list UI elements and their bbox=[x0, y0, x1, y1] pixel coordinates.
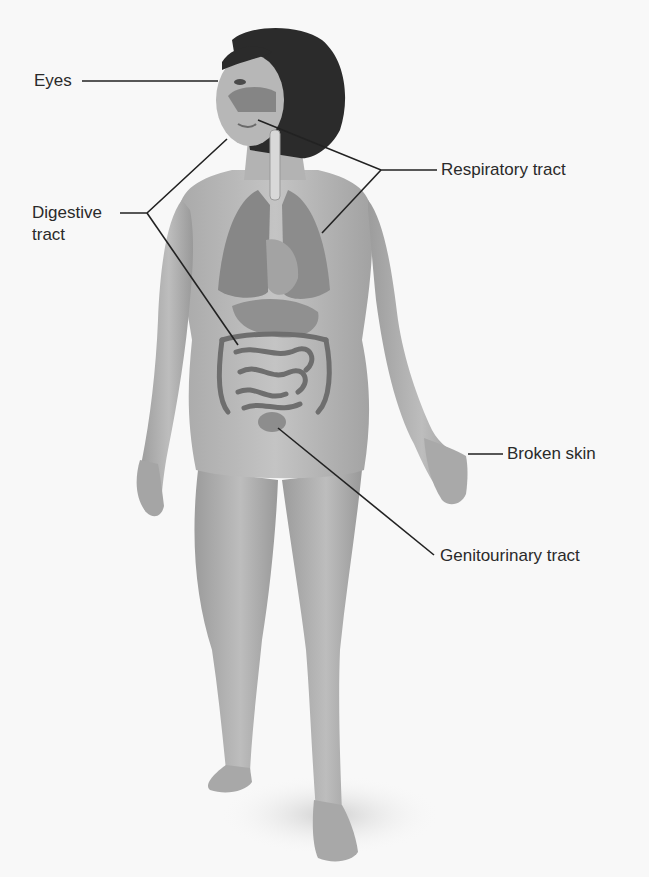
eye bbox=[234, 79, 246, 85]
head bbox=[216, 28, 345, 158]
left-foot bbox=[208, 765, 252, 792]
bladder bbox=[258, 412, 286, 432]
label-genitourinary-tract: Genitourinary tract bbox=[440, 545, 580, 567]
label-broken-skin: Broken skin bbox=[507, 443, 596, 465]
label-respiratory-tract: Respiratory tract bbox=[441, 159, 566, 181]
label-digestive-tract: Digestive tract bbox=[32, 202, 122, 246]
right-hand bbox=[424, 438, 468, 504]
label-eyes: Eyes bbox=[34, 70, 72, 92]
body-illustration bbox=[0, 0, 649, 877]
trachea bbox=[270, 130, 280, 200]
diagram-canvas: Eyes Respiratory tract Digestive tract B… bbox=[0, 0, 649, 877]
